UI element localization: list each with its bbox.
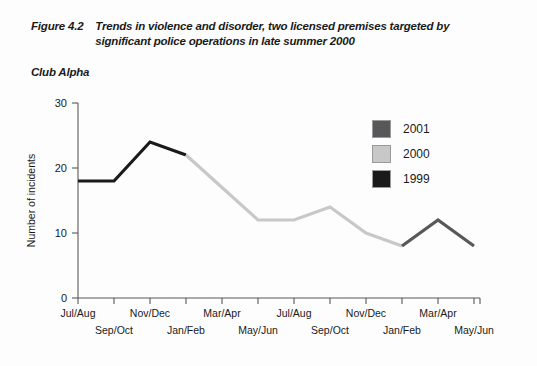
x-axis-labels: Jul/AugSep/OctNov/DecJan/FebMar/AprMay/J… <box>60 307 494 336</box>
legend-swatch-1999 <box>372 170 391 188</box>
legend-label: 2000 <box>403 147 430 161</box>
legend-item: 2000 <box>372 141 430 166</box>
x-axis-tick-label: Jan/Feb <box>383 324 421 336</box>
x-axis-tick-label: Nov/Dec <box>346 307 386 319</box>
series-line-2001 <box>402 220 474 246</box>
x-axis-tick-label: Sep/Oct <box>311 324 349 336</box>
y-axis-tick-label: 10 <box>55 227 67 239</box>
x-axis-tick-label: Jan/Feb <box>167 324 205 336</box>
y-axis-title-text: Number of incidents <box>25 154 37 247</box>
x-axis-tick-label: Sep/Oct <box>95 324 133 336</box>
x-axis-tick-label: May/Jun <box>454 324 494 336</box>
figure-container: Figure 4.2 Trends in violence and disord… <box>0 0 537 366</box>
legend-item: 1999 <box>372 166 430 191</box>
legend-label: 1999 <box>403 172 430 186</box>
y-axis-title: Number of incidents <box>25 154 37 247</box>
series-line-1999 <box>78 142 186 181</box>
x-axis-tick-label: Nov/Dec <box>130 307 170 319</box>
legend-swatch-2000 <box>372 145 391 163</box>
x-axis-tick-label: Jul/Aug <box>60 307 95 319</box>
y-axis-tick-label: 0 <box>61 292 67 304</box>
series-line-2000 <box>186 155 402 246</box>
legend-label: 2001 <box>403 122 430 136</box>
chart-legend: 200120001999 <box>372 116 430 191</box>
x-axis-tick-label: May/Jun <box>238 324 278 336</box>
y-axis-tick-label: 30 <box>55 97 67 109</box>
y-axis-tick-label: 20 <box>55 162 67 174</box>
legend-swatch-2001 <box>372 120 391 138</box>
x-axis-tick-label: Mar/Apr <box>419 307 457 319</box>
y-axis-labels: 0102030 <box>55 97 67 304</box>
chart-plot-area: 0102030 Jul/AugSep/OctNov/DecJan/FebMar/… <box>0 0 537 366</box>
line-chart-svg: 0102030 Jul/AugSep/OctNov/DecJan/FebMar/… <box>0 0 537 366</box>
x-axis-tick-label: Mar/Apr <box>203 307 241 319</box>
legend-item: 2001 <box>372 116 430 141</box>
x-axis-tick-label: Jul/Aug <box>276 307 311 319</box>
